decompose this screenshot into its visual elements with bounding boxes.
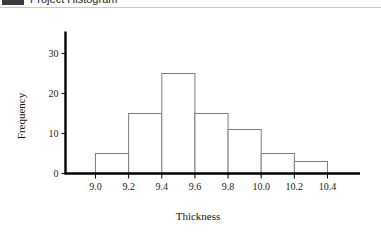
x-axis-ticks: 9.09.29.49.69.810.010.210.4	[89, 174, 336, 192]
app-icon	[2, 0, 24, 5]
y-tick-label: 20	[49, 88, 59, 99]
x-axis-title: Thickness	[176, 210, 221, 222]
histogram-bar	[195, 114, 228, 174]
histogram-bar	[261, 154, 294, 174]
y-axis-ticks: 0102030	[49, 48, 66, 179]
histogram-bar	[294, 162, 327, 174]
x-tick-label: 9.2	[122, 181, 135, 192]
histogram-plot: 9.09.29.49.69.810.010.210.4 0102030 Thic…	[0, 8, 381, 235]
x-tick-label: 9.4	[156, 181, 169, 192]
x-tick-label: 10.2	[286, 181, 304, 192]
x-tick-label: 10.0	[252, 181, 270, 192]
histogram-chart: 9.09.29.49.69.810.010.210.4 0102030 Thic…	[0, 8, 381, 235]
bar-series	[96, 74, 328, 174]
y-axis-title: Frequency	[15, 92, 27, 139]
histogram-bar	[228, 130, 261, 174]
x-tick-label: 9.8	[222, 181, 235, 192]
histogram-bar	[129, 114, 162, 174]
histogram-bar	[96, 154, 129, 174]
y-tick-label: 10	[49, 128, 59, 139]
x-tick-label: 9.0	[89, 181, 102, 192]
x-tick-label: 10.4	[319, 181, 337, 192]
histogram-bar	[162, 74, 195, 174]
window-title: Project Histogram	[30, 0, 117, 5]
x-tick-label: 9.6	[189, 181, 202, 192]
y-tick-label: 30	[49, 48, 59, 59]
y-tick-label: 0	[54, 168, 59, 179]
